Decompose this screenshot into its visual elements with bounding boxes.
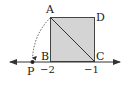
label-a: A [46,4,54,15]
tick-label-minus-2: −2 [40,65,55,75]
point-p [31,60,35,64]
label-b: B [41,51,49,62]
label-c: C [96,51,104,62]
diagram-canvas [0,0,130,85]
tick-label-minus-1: −1 [84,65,99,75]
label-d: D [96,12,105,23]
label-p: P [27,66,34,77]
